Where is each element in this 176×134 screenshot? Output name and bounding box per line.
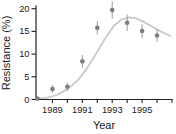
x-tick-label: 1993: [102, 105, 123, 115]
fit-curve: [37, 17, 171, 99]
y-tick-label: 15: [19, 26, 29, 36]
y-axis-title: Resistance (%): [0, 16, 12, 91]
plot-area: 051015201989199119931995: [19, 1, 172, 114]
x-tick-label: 1995: [132, 105, 153, 115]
data-point: [50, 87, 55, 92]
resistance-chart: 051015201989199119931995 Year Resistance…: [0, 0, 176, 134]
y-tick-label: 10: [19, 49, 29, 59]
data-point: [110, 8, 115, 13]
x-tick-label: 1989: [42, 105, 63, 115]
data-point: [95, 25, 100, 30]
x-axis-title: Year: [93, 119, 116, 131]
y-tick-label: 0: [24, 95, 29, 105]
data-point: [65, 84, 70, 89]
y-tick-label: 20: [19, 4, 29, 14]
data-point: [125, 20, 130, 25]
x-tick-label: 1991: [72, 105, 93, 115]
data-point: [80, 59, 85, 64]
data-point: [140, 29, 145, 34]
figure: 051015201989199119931995 Year Resistance…: [0, 0, 176, 134]
data-point: [155, 33, 160, 38]
y-tick-label: 5: [24, 72, 29, 82]
data-point: [35, 96, 40, 101]
